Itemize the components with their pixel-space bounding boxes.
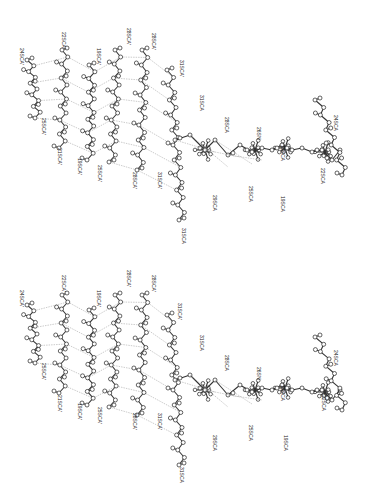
residue-label: 24SCA <box>333 350 339 367</box>
molecule-diagram-top: 24SCA'22SCA'19SCA'28SCA'28SCA'31SCA'25SC… <box>0 0 382 244</box>
residue-label: 24SCA' <box>19 48 25 65</box>
stereo-panel-bottom: 24SCA'22SCA'19SCA'28SCA'28SCA'31SCA'25SC… <box>0 245 382 489</box>
residue-label: 31SCA <box>199 95 205 112</box>
residue-label: 22SCA' <box>61 275 67 292</box>
residue-label: 19SCA <box>280 145 286 162</box>
residue-label: 28SCA' <box>132 172 138 189</box>
residue-label: 29SCA <box>212 435 218 452</box>
residue-label: 19SCA <box>283 435 289 452</box>
residue-label: 19SCA' <box>96 48 102 65</box>
residue-label: 22SCA <box>320 168 326 185</box>
residue-label: 25SCA' <box>97 165 103 182</box>
residue-label: 19SCA <box>280 196 286 213</box>
residue-label: 19SCA' <box>77 158 83 175</box>
residue-label: 21SCA' <box>57 395 63 412</box>
residue-label: 31SCA <box>179 467 185 484</box>
residue-label: 28SCA' <box>151 33 157 50</box>
residue-label: 31SCA' <box>157 172 163 189</box>
residue-label: 24SCA' <box>19 290 25 307</box>
residue-label: 25SCA' <box>97 407 103 424</box>
residue-label: 28SCA' <box>151 275 157 292</box>
residue-label: 28SCA' <box>126 28 132 45</box>
residue-label: 25SCA <box>248 425 254 442</box>
residue-label: 25SCA <box>248 186 254 203</box>
residue-label: 26SN <box>256 127 262 140</box>
residue-label: 25SCA' <box>41 118 47 135</box>
stereo-panel-top: 24SCA'22SCA'19SCA'28SCA'28SCA'31SCA'25SC… <box>0 0 382 244</box>
residue-label: 22SCA' <box>61 32 67 49</box>
residue-label: 19SCA' <box>96 290 102 307</box>
residue-label: 31SCA' <box>177 303 183 320</box>
residue-label: 19SCA' <box>77 403 83 420</box>
residue-label: 31SCA' <box>179 60 185 77</box>
residue-label: 24SCA <box>333 115 339 132</box>
residue-label: 26SN <box>256 367 262 380</box>
residue-label: 25SCA' <box>41 363 47 380</box>
residue-label: 22SCA <box>321 395 327 412</box>
residue-label: 31SCA' <box>157 413 163 430</box>
residue-label: 28SCA <box>224 117 230 134</box>
residue-label: 29SCA <box>212 195 218 212</box>
residue-label: 28SCA' <box>126 270 132 287</box>
residue-label: 28SCA' <box>132 413 138 430</box>
residue-label: 19SCA <box>280 385 286 402</box>
residue-label: 28SCA <box>224 355 230 372</box>
residue-label: 31SCA <box>199 335 205 352</box>
residue-label: 31SCA <box>181 228 187 244</box>
residue-label: 21SCA' <box>57 148 63 165</box>
molecule-diagram-bottom: 24SCA'22SCA'19SCA'28SCA'28SCA'31SCA'25SC… <box>0 245 382 489</box>
